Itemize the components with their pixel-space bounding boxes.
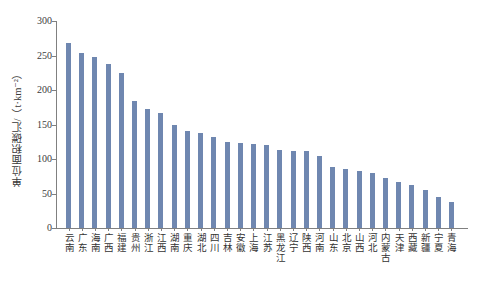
x-axis-category-label: 山西: [354, 233, 365, 257]
x-axis-tick-mark: [280, 228, 281, 231]
x-axis-tick-mark: [135, 228, 136, 231]
x-axis-category-label-text: 黑龙江: [275, 233, 285, 263]
x-axis-category-label: 天津: [393, 233, 404, 257]
bar: [304, 151, 309, 228]
x-axis-tick-mark: [372, 228, 373, 231]
x-axis-category-label: 青海: [446, 233, 457, 257]
bar: [106, 64, 111, 228]
y-axis-tick-label: 0: [22, 223, 52, 233]
x-axis-tick-mark: [214, 228, 215, 231]
bar: [185, 131, 190, 228]
x-axis-category-label: 湖北: [195, 233, 206, 257]
x-axis-tick-mark: [121, 228, 122, 231]
bar: [92, 57, 97, 228]
x-axis-tick-mark: [319, 228, 320, 231]
bar: [225, 142, 230, 228]
x-axis-category-label: 江西: [155, 233, 166, 257]
bar: [291, 151, 296, 228]
bar: [370, 173, 375, 228]
x-axis-tick-mark: [306, 228, 307, 231]
x-axis-category-label-text: 云南: [64, 233, 74, 253]
bar: [357, 171, 362, 228]
x-axis-category-label: 重庆: [182, 233, 193, 257]
x-axis-tick-mark: [399, 228, 400, 231]
x-axis-tick-mark: [412, 228, 413, 231]
y-axis-tick-label: 100: [22, 154, 52, 164]
x-axis-category-label: 陕西: [301, 233, 312, 257]
x-axis-tick-mark: [385, 228, 386, 231]
x-axis-category-label-text: 重庆: [182, 233, 192, 253]
x-axis-tick-mark: [438, 228, 439, 231]
x-axis-category-label-text: 贵州: [130, 233, 140, 253]
x-axis-category-label-text: 宁夏: [433, 233, 443, 253]
x-axis-category-label: 吉林: [222, 233, 233, 257]
x-axis-tick-marks: [56, 228, 468, 232]
y-axis-tick-mark: [52, 159, 56, 160]
x-axis-category-label-text: 北京: [341, 233, 351, 253]
x-axis-tick-mark: [108, 228, 109, 231]
x-axis-category-label-text: 新疆: [420, 233, 430, 253]
x-axis-category-label-text: 湖南: [169, 233, 179, 253]
bar-chart: 单位面积碳汇/（t·km⁻²） 050100150200250300 云南广东海…: [0, 0, 482, 291]
x-axis-tick-mark: [148, 228, 149, 231]
x-axis-tick-mark: [161, 228, 162, 231]
x-axis-tick-mark: [82, 228, 83, 231]
x-axis-category-label-text: 四川: [209, 233, 219, 253]
x-axis-tick-mark: [227, 228, 228, 231]
x-axis-category-label: 广东: [76, 233, 87, 257]
bars-layer: [56, 21, 468, 228]
x-axis-category-label-text: 西藏: [407, 233, 417, 253]
y-axis-tick-label: 150: [22, 120, 52, 130]
x-axis-category-label: 浙江: [142, 233, 153, 257]
x-axis-category-label: 西藏: [406, 233, 417, 257]
x-axis-category-label-text: 吉林: [222, 233, 232, 253]
x-axis-category-label-text: 陕西: [301, 233, 311, 253]
x-axis-category-label-text: 山东: [328, 233, 338, 253]
x-axis-category-label: 贵州: [129, 233, 140, 257]
x-axis-tick-mark: [69, 228, 70, 231]
x-axis-category-label-text: 福建: [116, 233, 126, 253]
x-axis-category-label-text: 河南: [314, 233, 324, 253]
x-axis-tick-mark: [174, 228, 175, 231]
x-axis-tick-mark: [95, 228, 96, 231]
x-axis-category-label: 内蒙古: [380, 233, 391, 267]
x-axis-category-label: 河北: [367, 233, 378, 257]
x-axis-category-label: 云南: [63, 233, 74, 257]
bar: [343, 169, 348, 228]
bar: [436, 197, 441, 228]
y-axis-tick-labels: 050100150200250300: [22, 14, 52, 236]
x-axis-category-label-text: 湖北: [196, 233, 206, 253]
plot-area: [56, 21, 468, 228]
x-axis-tick-mark: [425, 228, 426, 231]
x-axis-category-label: 新疆: [420, 233, 431, 257]
x-axis-category-label-text: 广东: [77, 233, 87, 253]
x-axis-category-label: 广西: [103, 233, 114, 257]
bar: [277, 150, 282, 228]
y-axis-tick-mark: [52, 194, 56, 195]
x-axis-category-label-text: 安徽: [235, 233, 245, 253]
y-axis-tick-label: 50: [22, 189, 52, 199]
x-axis-category-label-text: 上海: [248, 233, 258, 253]
bar: [317, 156, 322, 228]
x-axis-tick-mark: [346, 228, 347, 231]
x-axis-category-label-text: 山西: [354, 233, 364, 253]
x-axis-category-label-text: 内蒙古: [380, 233, 390, 263]
x-axis-category-label: 四川: [208, 233, 219, 257]
bar: [449, 202, 454, 228]
x-axis-tick-mark: [333, 228, 334, 231]
x-axis-tick-mark: [253, 228, 254, 231]
bar: [211, 137, 216, 228]
x-axis-category-label: 安徽: [235, 233, 246, 257]
x-axis-category-label-text: 江西: [156, 233, 166, 253]
bar: [145, 109, 150, 228]
x-axis-tick-mark: [293, 228, 294, 231]
bar: [158, 113, 163, 228]
x-axis-category-label: 上海: [248, 233, 259, 257]
x-axis-tick-mark: [201, 228, 202, 231]
x-axis-category-label-text: 江苏: [262, 233, 272, 253]
x-axis-category-label: 江苏: [261, 233, 272, 257]
x-axis-tick-mark: [187, 228, 188, 231]
x-axis-category-label-text: 青海: [446, 233, 456, 253]
bar: [238, 143, 243, 228]
y-axis-tick-label: 300: [22, 16, 52, 26]
